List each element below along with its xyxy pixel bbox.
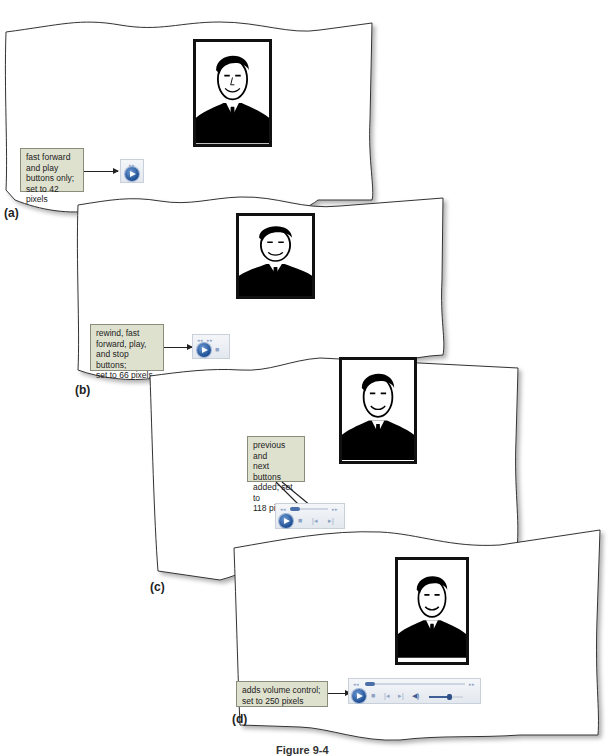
callout-line: adds volume control;	[242, 685, 322, 696]
callout-arrow-d	[328, 693, 350, 694]
portrait-illustration	[398, 560, 466, 662]
next-button[interactable]: ▸|	[398, 692, 404, 700]
portrait-image-d	[395, 557, 469, 665]
mute-button[interactable]: ◀)	[412, 692, 419, 700]
media-player-250px: ◂◂ ▸▸ ■ |◂ ▸| ◀)	[348, 678, 481, 704]
callout-line: set to 250 pixels	[242, 696, 322, 707]
volume-slider[interactable]	[429, 696, 463, 698]
play-button[interactable]	[352, 689, 366, 703]
volume-level	[429, 696, 449, 698]
callout-box-d: adds volume control; set to 250 pixels	[236, 681, 328, 707]
seek-bar[interactable]	[365, 683, 465, 685]
stop-button[interactable]: ■	[371, 692, 375, 700]
seek-knob[interactable]	[365, 682, 375, 686]
rewind-icon[interactable]: ◂◂	[353, 680, 359, 688]
volume-knob[interactable]	[447, 694, 452, 700]
figure-caption: Figure 9-4	[276, 744, 329, 756]
panel-label-d: (d)	[232, 712, 247, 726]
fast-forward-icon[interactable]: ▸▸	[469, 680, 475, 688]
previous-button[interactable]: |◂	[384, 692, 390, 700]
